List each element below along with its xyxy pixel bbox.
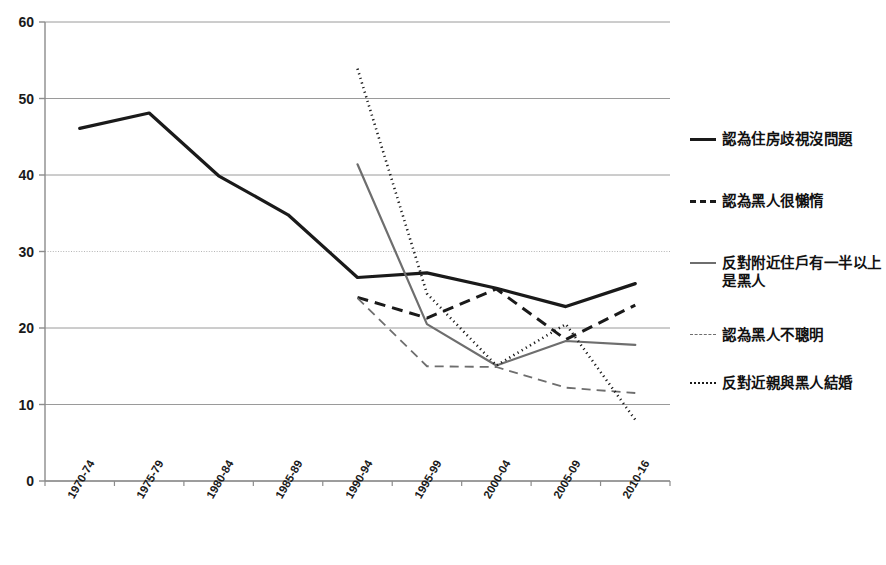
series-line-4 (358, 298, 636, 393)
series-line-1 (80, 113, 636, 307)
legend-swatch-icon (690, 374, 716, 390)
legend-swatch-icon (690, 130, 716, 146)
y-tick-label: 20 (4, 321, 34, 335)
y-tick-label: 60 (4, 15, 34, 29)
legend-swatch-icon (690, 326, 716, 342)
y-tick-label: 30 (4, 245, 34, 259)
y-tick-label: 40 (4, 168, 34, 182)
y-tick-label: 10 (4, 398, 34, 412)
line-chart: 6050403020100 1970-741975-791980-841985-… (0, 0, 886, 565)
legend-swatch-icon (690, 192, 716, 208)
series-line-3 (358, 164, 636, 365)
legend-label: 認為黑人很懶惰 (722, 192, 824, 210)
legend-label: 反對附近住戶有一半以上是黑人 (722, 254, 886, 290)
y-tick-label: 0 (4, 474, 34, 488)
legend-item-1[interactable]: 認為住房歧視沒問題 (690, 130, 886, 148)
legend-label: 認為黑人不聰明 (722, 326, 824, 344)
legend-item-4[interactable]: 認為黑人不聰明 (690, 326, 886, 344)
legend-label: 反對近親與黑人結婚 (722, 374, 853, 392)
legend-item-2[interactable]: 認為黑人很懶惰 (690, 192, 886, 210)
y-tick-label: 50 (4, 92, 34, 106)
legend-item-3[interactable]: 反對附近住戶有一半以上是黑人 (690, 254, 886, 290)
legend-swatch-icon (690, 254, 716, 270)
legend-item-5[interactable]: 反對近親與黑人結婚 (690, 374, 886, 392)
legend-label: 認為住房歧視沒問題 (722, 130, 853, 148)
